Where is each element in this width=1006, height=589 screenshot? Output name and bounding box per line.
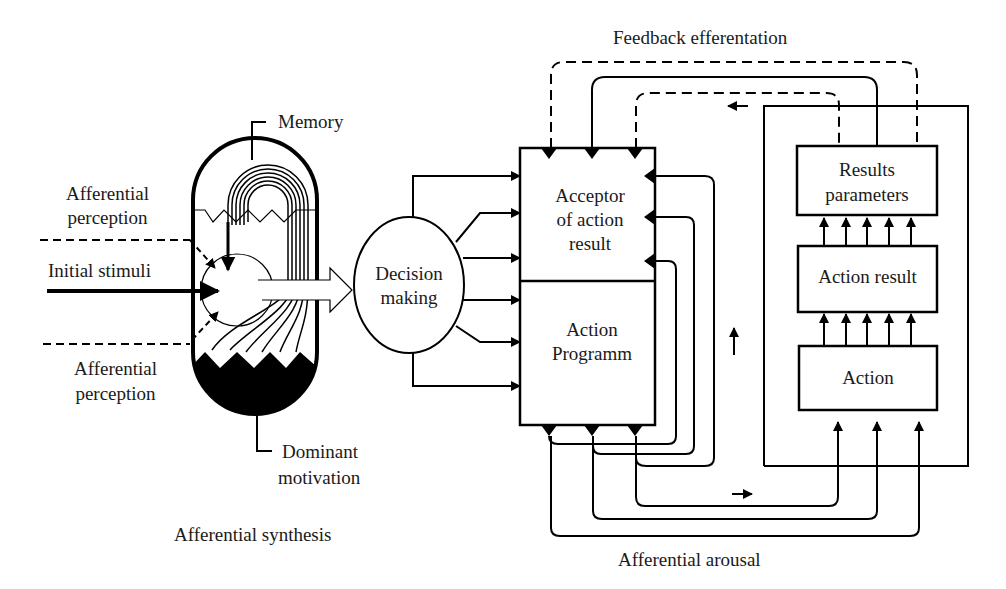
afferential-perception-top-label-1: Afferential — [60, 182, 155, 206]
action-result-label: Action result — [798, 265, 937, 289]
dominant-motivation-label-2: motivation — [278, 466, 360, 490]
memory-label: Memory — [278, 110, 343, 134]
afferential-perception-top-label-2: perception — [60, 206, 155, 230]
feedback-efferentation-label: Feedback efferentation — [613, 26, 787, 50]
decision-making-label-2: making — [359, 286, 459, 310]
acceptor-label-2: of action — [530, 208, 650, 232]
results-parameters-label-1: Results — [797, 158, 937, 182]
initial-stimuli-label: Initial stimuli — [48, 259, 151, 283]
afferential-arousal-label: Afferential arousal — [618, 548, 761, 572]
dominant-motivation-label-1: Dominant — [282, 440, 358, 464]
memory-zigzag — [193, 210, 317, 222]
acceptor-label-1: Acceptor — [530, 184, 650, 208]
decision-making-label-1: Decision — [359, 262, 459, 286]
afferential-perception-bottom-label-1: Afferential — [68, 357, 163, 381]
dominant-motivation-leader — [257, 414, 272, 451]
acceptor-label-3: result — [530, 232, 650, 256]
memory-leader — [252, 122, 266, 160]
action-label: Action — [799, 366, 937, 390]
afferential-perception-bottom-label-2: perception — [68, 382, 163, 406]
afferential-synthesis-capsule — [190, 138, 352, 470]
afferential-synthesis-label: Afferential synthesis — [174, 523, 331, 547]
action-programm-label-2: Programm — [532, 342, 652, 366]
action-programm-label-1: Action — [532, 318, 652, 342]
functional-system-diagram — [0, 0, 1006, 589]
results-parameters-label-2: parameters — [797, 183, 937, 207]
